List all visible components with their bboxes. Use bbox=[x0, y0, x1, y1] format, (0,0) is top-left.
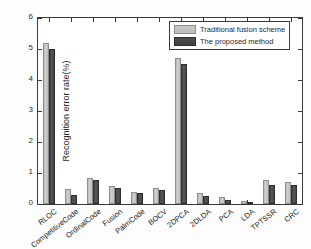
bar-group bbox=[86, 178, 100, 204]
bar bbox=[247, 202, 253, 204]
x-axis-tick-mark bbox=[159, 18, 160, 22]
bar-group bbox=[152, 188, 166, 204]
bar bbox=[225, 200, 231, 204]
bar-group bbox=[284, 182, 298, 204]
bar bbox=[49, 49, 55, 204]
bar bbox=[269, 185, 275, 204]
bar bbox=[181, 64, 187, 204]
bar bbox=[71, 195, 77, 204]
legend-swatch-icon-series-0 bbox=[174, 25, 196, 34]
x-axis-tick-mark bbox=[137, 18, 138, 22]
chart-screenshot: Recognition error rate(%) Traditional fu… bbox=[0, 0, 311, 249]
x-axis-tick-label: 2DLDA bbox=[188, 207, 213, 229]
bar bbox=[291, 185, 297, 204]
legend-item-the-proposed-method: The proposed method bbox=[174, 37, 285, 46]
bar-group bbox=[218, 197, 232, 204]
y-axis-tick-label: 6 bbox=[3, 13, 33, 21]
y-axis-tick-mark bbox=[298, 142, 302, 143]
legend-label-series-1: The proposed method bbox=[200, 38, 273, 46]
y-axis-tick-mark bbox=[298, 18, 302, 19]
chart-legend: Traditional fusion scheme The proposed m… bbox=[169, 21, 290, 50]
y-axis-tick-label: 4 bbox=[3, 75, 33, 83]
y-axis-tick-label: 0 bbox=[3, 199, 33, 207]
x-axis-tick-label: CRC bbox=[282, 207, 300, 224]
bar-group bbox=[262, 180, 276, 204]
legend-item-traditional-fusion-scheme: Traditional fusion scheme bbox=[174, 25, 285, 34]
x-axis-tick-label: PCA bbox=[217, 207, 235, 224]
x-axis-tick-mark bbox=[93, 18, 94, 22]
x-axis-tick-mark bbox=[291, 18, 292, 22]
x-axis-tick-mark bbox=[49, 18, 50, 22]
bar bbox=[93, 180, 99, 204]
legend-swatch-icon-series-1 bbox=[174, 37, 196, 46]
bar-group bbox=[240, 201, 254, 204]
bar-group bbox=[196, 193, 210, 204]
y-axis-tick-mark bbox=[298, 173, 302, 174]
y-axis-tick-label: 3 bbox=[3, 106, 33, 114]
bar bbox=[137, 193, 143, 204]
y-axis-tick-mark bbox=[298, 80, 302, 81]
bar bbox=[159, 190, 165, 204]
bar bbox=[203, 196, 209, 204]
x-axis-tick-label: BOCV bbox=[146, 207, 168, 227]
y-axis-tick-label: 1 bbox=[3, 168, 33, 176]
bar bbox=[115, 188, 121, 204]
bar-group bbox=[174, 58, 188, 204]
x-axis-tick-mark bbox=[71, 18, 72, 22]
legend-label-series-0: Traditional fusion scheme bbox=[200, 26, 285, 34]
bar-group bbox=[64, 189, 78, 204]
bar-group bbox=[130, 192, 144, 204]
y-axis-tick-label: 2 bbox=[3, 137, 33, 145]
bar-group bbox=[108, 186, 122, 204]
y-axis-tick-mark bbox=[38, 18, 42, 19]
bar-group bbox=[42, 43, 56, 204]
y-axis-tick-label: 5 bbox=[3, 44, 33, 52]
y-axis-tick-mark bbox=[298, 111, 302, 112]
x-axis-tick-label: 2DPCA bbox=[165, 207, 190, 229]
y-axis-label: Recognition error rate(%) bbox=[61, 31, 71, 191]
x-axis-tick-mark bbox=[115, 18, 116, 22]
y-axis-tick-mark bbox=[298, 49, 302, 50]
